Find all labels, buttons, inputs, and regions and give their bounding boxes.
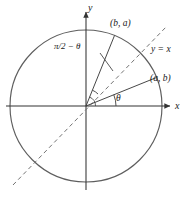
identity-line-label: y = x <box>151 45 171 55</box>
point-label-ba: (b, a) <box>110 19 131 29</box>
x-axis-label: x <box>175 101 179 111</box>
radius-to-ab <box>86 78 157 107</box>
angle-label-theta: θ <box>116 94 121 104</box>
point-label-ab: (a, b) <box>150 74 171 84</box>
y-axis-label: y <box>88 3 92 13</box>
angle-label-complement: π/2 − θ <box>54 42 81 51</box>
figure-canvas <box>0 0 192 197</box>
radius-to-ba <box>86 36 115 107</box>
unit-circle-figure: y x (b, a) (a, b) y = x π/2 − θ θ <box>0 0 192 197</box>
angle-arc-complement <box>92 90 98 94</box>
